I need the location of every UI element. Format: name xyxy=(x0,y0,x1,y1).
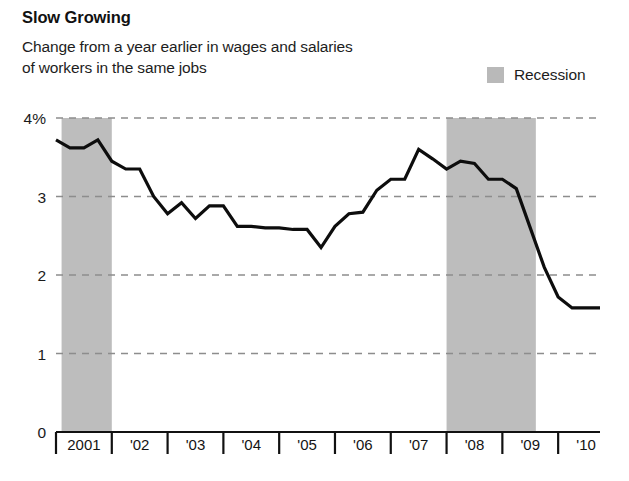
x-tick-label: 2001 xyxy=(67,436,100,453)
y-tick-label: 4% xyxy=(24,110,47,127)
y-tick-label: 3 xyxy=(37,189,46,206)
x-tick-label: '09 xyxy=(520,436,540,453)
x-tick-label: '04 xyxy=(242,436,262,453)
line-chart-plot: 01234% 2001'02'03'04'05'06'07'08'09'10 xyxy=(0,0,629,481)
x-tick-label: '07 xyxy=(409,436,429,453)
y-tick-label: 0 xyxy=(37,424,46,441)
y-tick-label: 1 xyxy=(37,346,46,363)
y-axis-labels: 01234% xyxy=(24,110,47,441)
x-tick-label: '10 xyxy=(576,436,596,453)
x-tick-label: '08 xyxy=(465,436,485,453)
x-tick-label: '06 xyxy=(353,436,373,453)
x-axis: 2001'02'03'04'05'06'07'08'09'10 xyxy=(56,432,600,454)
x-tick-label: '03 xyxy=(186,436,206,453)
y-tick-label: 2 xyxy=(37,267,46,284)
chart-figure: Slow Growing Change from a year earlier … xyxy=(0,0,629,481)
x-tick-label: '02 xyxy=(130,436,150,453)
x-tick-label: '05 xyxy=(297,436,317,453)
